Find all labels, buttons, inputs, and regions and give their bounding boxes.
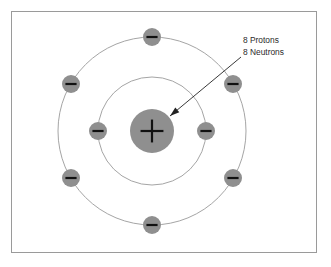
electron-outer-bottom — [143, 216, 161, 234]
electron-outer-lower-left — [62, 169, 80, 187]
electron-inner-left — [89, 122, 107, 140]
nucleus — [130, 109, 174, 153]
electron-outer-upper-left — [62, 75, 80, 93]
atom-diagram-canvas: 8 Protons 8 Neutrons — [0, 0, 331, 267]
protons-label: 8 Protons — [243, 35, 279, 45]
electron-outer-upper-right — [224, 75, 242, 93]
neutrons-label: 8 Neutrons — [243, 47, 284, 57]
electron-inner-right — [197, 122, 215, 140]
electron-outer-top — [143, 28, 161, 46]
atom-diagram: 8 Protons 8 Neutrons — [0, 0, 331, 267]
electron-outer-lower-right — [224, 169, 242, 187]
